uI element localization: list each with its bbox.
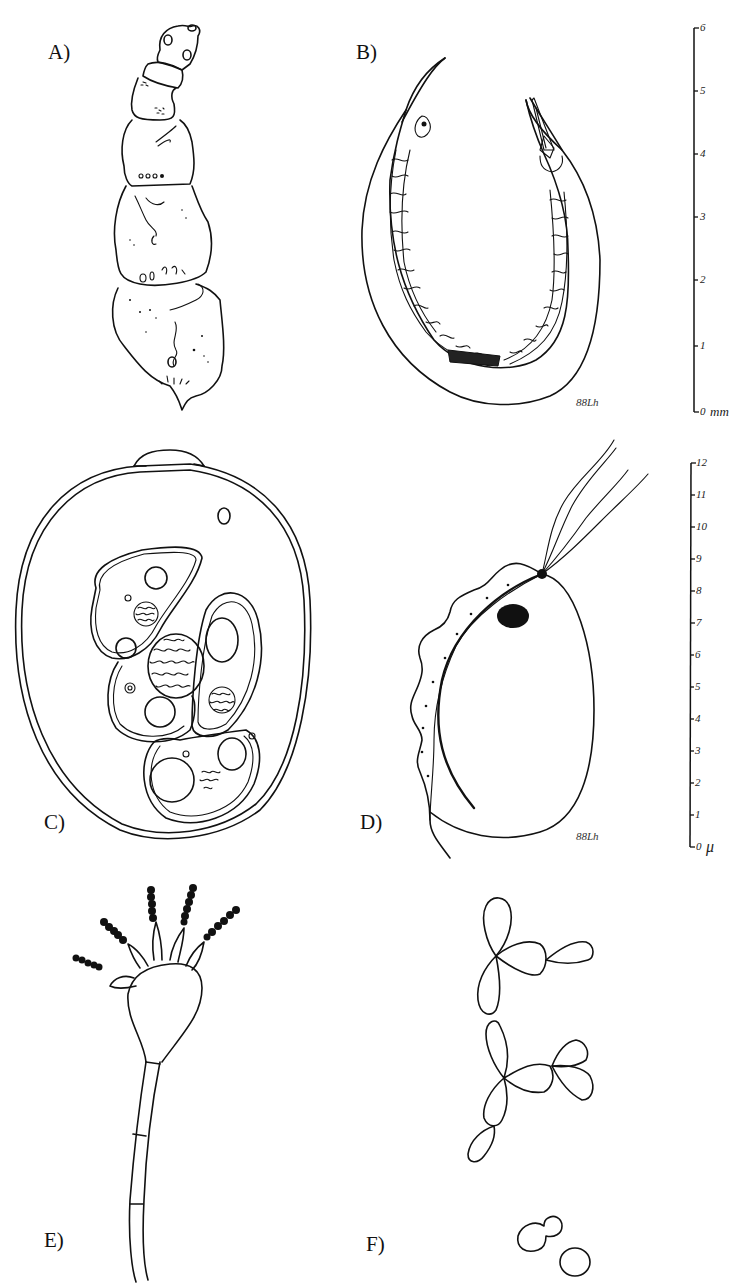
- panel-f: F): [350, 870, 680, 1288]
- micron-scale-line: [686, 455, 706, 865]
- panel-d: D) 88Lh: [350, 440, 680, 870]
- panel-e: E): [0, 870, 330, 1288]
- micron-tick-7: 7: [696, 617, 702, 628]
- mm-tick-3: 3: [700, 211, 706, 222]
- nematode-drawing: [330, 0, 660, 420]
- micron-tick-9: 9: [696, 553, 702, 564]
- artist-signature-b: 88Lh: [576, 396, 599, 408]
- mm-scale-bar: 6 5 4 3 2 1 0 mm: [690, 20, 748, 420]
- micron-tick-11: 11: [696, 489, 706, 500]
- flagellate-drawing: [350, 440, 680, 870]
- cyst-drawing: [0, 440, 340, 870]
- micron-tick-2: 2: [695, 777, 701, 788]
- conidiophore-drawing: [0, 870, 330, 1288]
- micron-tick-12: 12: [696, 457, 707, 468]
- mm-tick-5: 5: [700, 85, 706, 96]
- mm-tick-0: 0: [700, 406, 706, 417]
- micron-tick-0: 0: [696, 841, 702, 852]
- artist-signature-d: 88Lh: [576, 830, 599, 842]
- micron-tick-5: 5: [695, 681, 701, 692]
- panel-b: B) 88Lh: [330, 0, 660, 420]
- segmented-larva-drawing: [0, 0, 300, 420]
- panel-c: C): [0, 440, 340, 870]
- mm-tick-2: 2: [700, 274, 706, 285]
- nucleus-3: [209, 687, 235, 713]
- panel-a: A): [0, 0, 300, 420]
- micron-tick-1: 1: [695, 809, 701, 820]
- conidia-chains: [73, 884, 241, 971]
- nucleus-4: [200, 771, 220, 789]
- mm-tick-4: 4: [700, 148, 706, 159]
- micron-tick-3: 3: [695, 745, 701, 756]
- micron-scale-bar: 12 11 10 9 8 7 6 5 4 3 2 1 0 μ: [686, 455, 748, 865]
- micron-unit-label: μ: [706, 838, 714, 856]
- budding-yeast-drawing: [350, 870, 680, 1288]
- micron-tick-6: 6: [695, 649, 701, 660]
- micron-tick-4: 4: [695, 713, 701, 724]
- nucleus-1: [134, 602, 158, 626]
- micron-tick-8: 8: [696, 585, 702, 596]
- mm-tick-6: 6: [700, 22, 706, 33]
- mm-tick-1: 1: [700, 340, 706, 351]
- micron-tick-10: 10: [696, 521, 707, 532]
- mm-unit-label: mm: [710, 404, 729, 420]
